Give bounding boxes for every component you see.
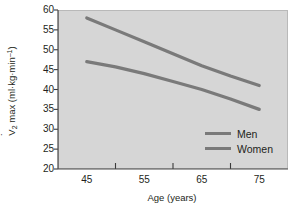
legend-item-men: Men xyxy=(205,126,290,141)
legend-swatch-women xyxy=(205,147,231,150)
legend-item-women: Women xyxy=(205,141,290,156)
y-axis-superscript: –1 xyxy=(6,50,13,58)
legend-swatch-men xyxy=(205,132,231,135)
x-tick-labels: 45556575 xyxy=(0,0,303,213)
x-tick-label: 65 xyxy=(187,175,217,185)
x-axis-title: Age (years) xyxy=(56,192,288,203)
x-tick-label: 55 xyxy=(129,175,159,185)
y-axis-title-suffix: ) xyxy=(6,46,17,49)
legend-label-men: Men xyxy=(237,128,257,140)
chart-legend: Men Women xyxy=(205,126,290,156)
v-dot-symbol: V xyxy=(5,129,19,135)
x-tick-label: 45 xyxy=(72,175,102,185)
legend-label-women: Women xyxy=(237,143,273,155)
y-axis-title-mid: max (ml·kg·min xyxy=(6,57,17,125)
x-tick-label: 75 xyxy=(244,175,274,185)
chart-figure: 605550454035302520 45556575 V2 max (ml·k… xyxy=(0,0,303,213)
y-axis-title: V2 max (ml·kg·min–1) xyxy=(3,6,17,176)
